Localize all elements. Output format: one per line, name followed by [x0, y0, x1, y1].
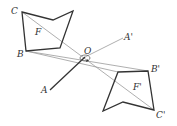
label-f: F	[34, 27, 42, 37]
diagram-canvas: C B F O A A' B' F' C'	[0, 0, 177, 126]
label-a: A	[40, 85, 48, 95]
label-b-prime: B'	[150, 64, 160, 74]
label-o: O	[84, 46, 92, 56]
label-b: B	[16, 49, 24, 59]
label-c-prime: C'	[156, 110, 165, 120]
label-c: C	[11, 6, 18, 16]
rotation-diagram: C B F O A A' B' F' C'	[0, 0, 177, 126]
label-f-prime: F'	[132, 82, 142, 92]
segment-o-a	[50, 57, 85, 90]
label-a-prime: A'	[123, 32, 133, 42]
